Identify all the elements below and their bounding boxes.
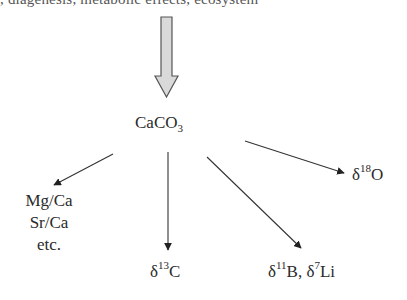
trace-element-mgca: Mg/Ca	[14, 190, 84, 212]
delta-symbol: δ	[352, 165, 360, 184]
arrow-to-trace-elements	[54, 154, 113, 185]
source-subscript: 3	[178, 122, 184, 134]
delta-symbol: δ	[150, 262, 158, 281]
element-symbol: Li	[320, 262, 335, 281]
output-node-oxygen-isotope: δ18O	[352, 166, 383, 183]
output-node-trace-elements: Mg/Ca Sr/Ca etc.	[14, 190, 84, 256]
inflow-block-arrow-icon	[155, 17, 178, 97]
isotope-mass: 18	[360, 162, 371, 174]
arrow-to-oxygen-isotope	[245, 141, 344, 173]
output-node-boron-lithium-isotopes: δ11B, δ7Li	[268, 263, 335, 280]
element-symbol: O	[371, 165, 383, 184]
arrow-to-boron-lithium-isotopes	[207, 157, 301, 248]
isotope-mass: 11	[276, 259, 287, 271]
trace-element-etc: etc.	[14, 234, 84, 256]
source-node-caco3: CaCO3	[135, 114, 183, 131]
output-node-carbon-isotope: δ13C	[150, 263, 180, 280]
source-label: CaCO	[135, 113, 178, 132]
isotope-mass: 7	[314, 259, 320, 271]
isotope-mass: 13	[158, 259, 169, 271]
trace-element-srca: Sr/Ca	[14, 212, 84, 234]
delta-symbol: δ	[268, 262, 276, 281]
element-symbol: B,	[287, 262, 307, 281]
element-symbol: C	[169, 262, 180, 281]
